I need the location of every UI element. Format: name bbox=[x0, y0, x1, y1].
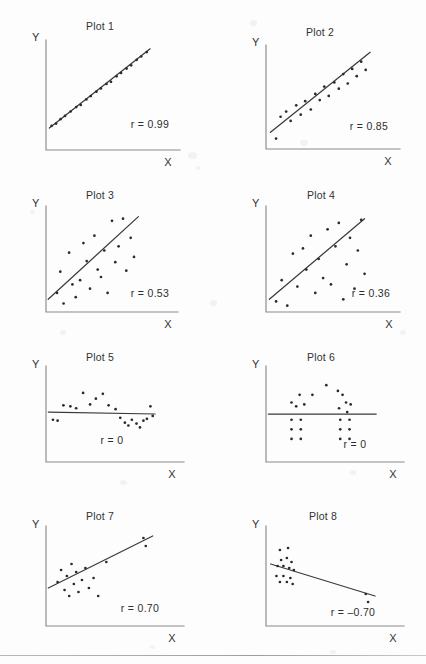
data-point bbox=[351, 68, 354, 71]
data-point bbox=[275, 575, 278, 578]
data-point bbox=[364, 593, 367, 596]
plot-title: Plot 7 bbox=[86, 510, 114, 522]
y-axis-label: Y bbox=[32, 358, 40, 370]
data-point bbox=[296, 285, 299, 288]
data-point bbox=[282, 575, 285, 578]
plot-title: Plot 4 bbox=[307, 189, 335, 201]
x-axis-label: X bbox=[384, 155, 392, 167]
y-axis-label: Y bbox=[252, 197, 260, 209]
data-point bbox=[292, 252, 295, 255]
regression-line bbox=[48, 217, 138, 300]
data-point bbox=[56, 419, 59, 422]
data-point bbox=[135, 422, 138, 425]
plot-cell-6: Plot 6YXr = 0 bbox=[213, 344, 426, 500]
data-point bbox=[345, 401, 348, 404]
data-point bbox=[363, 272, 366, 275]
data-point bbox=[59, 270, 62, 273]
data-point bbox=[69, 405, 72, 408]
data-point bbox=[105, 83, 108, 86]
plot-cell-1: Plot 1YXr = 0.99 bbox=[0, 0, 213, 178]
correlation-annotation: r = 0.70 bbox=[121, 602, 159, 614]
data-point bbox=[93, 234, 96, 237]
data-point bbox=[299, 113, 302, 116]
data-point bbox=[337, 222, 340, 225]
regression-line bbox=[48, 412, 155, 414]
data-point bbox=[280, 559, 283, 562]
data-point bbox=[66, 575, 69, 578]
data-point bbox=[84, 567, 87, 570]
data-points bbox=[52, 392, 154, 429]
data-point bbox=[339, 438, 342, 441]
data-point bbox=[72, 583, 75, 586]
y-axis-label: Y bbox=[32, 518, 40, 530]
data-point bbox=[309, 108, 312, 111]
correlation-annotation: r = 0 bbox=[344, 438, 367, 450]
data-point bbox=[288, 567, 291, 570]
correlation-annotation: r = –0.70 bbox=[331, 606, 375, 618]
data-point bbox=[50, 124, 53, 127]
data-point bbox=[290, 428, 293, 431]
data-point bbox=[142, 537, 145, 540]
data-point bbox=[282, 565, 285, 568]
data-point bbox=[144, 545, 147, 548]
data-point bbox=[299, 438, 302, 441]
data-points bbox=[275, 547, 369, 604]
data-point bbox=[302, 247, 305, 250]
data-point bbox=[81, 579, 84, 582]
data-point bbox=[360, 60, 363, 63]
data-point bbox=[356, 249, 359, 252]
data-point bbox=[130, 418, 133, 421]
data-point bbox=[333, 81, 336, 84]
data-point bbox=[290, 418, 293, 421]
plot-title: Plot 5 bbox=[86, 351, 114, 363]
data-point bbox=[88, 587, 91, 590]
data-point bbox=[120, 72, 123, 75]
data-point bbox=[339, 418, 342, 421]
data-point bbox=[314, 93, 317, 96]
correlation-annotation: r = 0.85 bbox=[350, 120, 388, 132]
data-point bbox=[286, 304, 289, 307]
x-axis-label: X bbox=[389, 632, 397, 644]
data-point bbox=[95, 397, 98, 400]
data-point bbox=[287, 547, 290, 550]
y-axis-label: Y bbox=[32, 197, 40, 209]
data-point bbox=[292, 569, 295, 572]
data-point bbox=[89, 287, 92, 290]
data-point bbox=[62, 404, 65, 407]
data-point bbox=[275, 137, 278, 140]
data-point bbox=[325, 384, 328, 387]
plot-title: Plot 2 bbox=[306, 26, 334, 38]
data-point bbox=[303, 403, 306, 406]
data-point bbox=[70, 563, 73, 566]
scatter-plot-5: Plot 5YXr = 0 bbox=[0, 344, 213, 500]
data-point bbox=[338, 407, 341, 410]
data-point bbox=[330, 283, 333, 286]
data-point bbox=[52, 418, 55, 421]
data-point bbox=[89, 95, 92, 98]
data-point bbox=[318, 99, 321, 102]
data-point bbox=[130, 64, 133, 67]
data-point bbox=[62, 302, 65, 305]
data-point bbox=[77, 591, 80, 594]
data-point bbox=[275, 300, 278, 303]
data-point bbox=[279, 549, 282, 552]
data-point bbox=[100, 87, 103, 90]
x-axis-label: X bbox=[164, 156, 172, 168]
data-point bbox=[149, 405, 152, 408]
data-point bbox=[327, 95, 330, 98]
data-point bbox=[101, 392, 104, 395]
data-point bbox=[151, 415, 154, 418]
data-point bbox=[295, 405, 298, 408]
data-point bbox=[55, 122, 58, 125]
data-point bbox=[103, 249, 106, 252]
data-point bbox=[355, 75, 358, 78]
data-point bbox=[92, 577, 95, 580]
plot-title: Plot 8 bbox=[309, 510, 337, 522]
plot-cell-7: Plot 7YXr = 0.70 bbox=[0, 500, 213, 664]
data-point bbox=[74, 296, 77, 299]
plot-title: Plot 3 bbox=[86, 189, 114, 201]
data-point bbox=[317, 258, 320, 261]
plot-grid: Plot 1YXr = 0.99 Plot 2YXr = 0.85 Plot 3… bbox=[0, 0, 426, 664]
data-point bbox=[68, 595, 71, 598]
data-point bbox=[286, 581, 289, 584]
